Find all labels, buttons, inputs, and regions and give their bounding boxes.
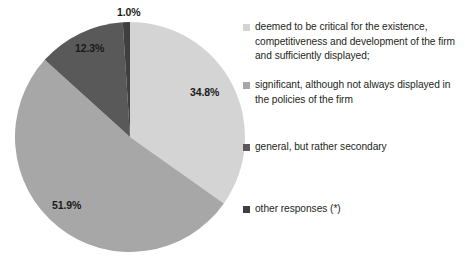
pie-slice-group xyxy=(15,22,245,252)
pie-plot-area: 34.8% 51.9% 12.3% 1.0% xyxy=(0,0,250,263)
slice-label-significant: 51.9% xyxy=(52,199,81,211)
legend-label-significant-line2: the policies of the firm xyxy=(255,94,353,105)
slice-label-critical: 34.8% xyxy=(190,86,219,98)
legend-item-other[interactable]: other responses (*) xyxy=(243,202,459,217)
legend-label-general: general, but rather secondary xyxy=(255,140,387,155)
legend-label-critical: deemed to be critical for the existence,… xyxy=(255,20,455,64)
legend-label-critical-line3: and sufficiently displayed; xyxy=(255,50,370,61)
legend-label-critical-line2: competitiveness and development of the f… xyxy=(255,36,455,47)
legend-swatch-icon-significant xyxy=(243,82,250,89)
slice-label-general: 12.3% xyxy=(75,42,104,54)
legend-item-critical[interactable]: deemed to be critical for the existence,… xyxy=(243,20,459,64)
slice-label-other: 1.0% xyxy=(117,6,141,18)
pie-chart-figure: 34.8% 51.9% 12.3% 1.0% deemed to be crit… xyxy=(0,0,465,263)
legend-label-critical-line1: deemed to be critical for the existence, xyxy=(255,21,427,32)
legend-swatch-icon-critical xyxy=(243,24,250,31)
legend-item-general[interactable]: general, but rather secondary xyxy=(243,140,459,155)
legend-label-significant: significant, although not always display… xyxy=(255,78,450,107)
legend-item-significant[interactable]: significant, although not always display… xyxy=(243,78,459,107)
legend: deemed to be critical for the existence,… xyxy=(243,12,465,252)
legend-swatch-icon-general xyxy=(243,144,250,151)
legend-label-significant-line1: significant, although not always display… xyxy=(255,79,450,90)
legend-swatch-icon-other xyxy=(243,206,250,213)
pie-svg xyxy=(0,0,250,263)
legend-label-other: other responses (*) xyxy=(255,202,341,217)
